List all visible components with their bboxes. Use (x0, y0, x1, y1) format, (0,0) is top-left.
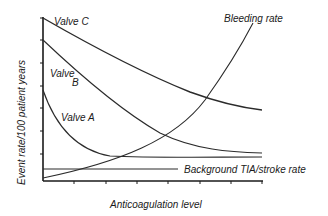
axes (43, 17, 263, 181)
valve-c-label: Valve C (54, 16, 89, 27)
valve-a-curve (43, 90, 262, 157)
y-axis-title: Event rate/100 patient years (16, 60, 27, 185)
x-axis-title: Anticoagulation level (109, 199, 203, 210)
valve-b-label-line2: B (72, 77, 79, 88)
bleeding-rate-curve (43, 23, 253, 178)
valve-b-curve (43, 40, 262, 153)
background-tia-label: Background TIA/stroke rate (184, 164, 306, 175)
bleeding-rate-label: Bleeding rate (224, 13, 283, 24)
line-chart: Valve C Valve B Valve A Bleeding rate Ba… (0, 0, 328, 216)
valve-a-label: Valve A (61, 112, 95, 123)
